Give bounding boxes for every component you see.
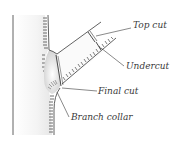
branch-stub [57,31,104,84]
leader-branch-collar [57,92,69,117]
trunk-right-edge-lower [54,88,60,135]
label-undercut: Undercut [126,62,169,71]
leader-undercut [101,48,124,66]
leader-final-cut [62,88,97,91]
leader-top-cut [96,28,131,36]
trunk-right-edge-upper [48,15,49,50]
label-branch-collar: Branch collar [71,113,133,122]
label-top-cut: Top cut [133,21,167,30]
label-final-cut: Final cut [98,87,138,96]
